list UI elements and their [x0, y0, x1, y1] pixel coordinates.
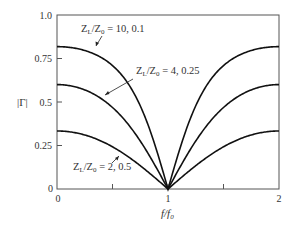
y-tick-label: 0.75 — [35, 53, 53, 64]
x-tick-label: 1 — [166, 193, 171, 204]
annotation-ratio-2: ZL/Z0 = 2, 0.5 — [73, 156, 131, 174]
arrow-line — [105, 79, 133, 95]
x-axis-label: f/f0 — [161, 207, 174, 221]
y-tick-label: 0.25 — [35, 140, 53, 151]
arrowhead-icon — [105, 91, 110, 95]
x-tick-label: 2 — [277, 193, 282, 204]
annotation-ratio-4: ZL/Z0 = 4, 0.25 — [105, 65, 200, 95]
x-tick-label: 0 — [56, 193, 61, 204]
svg-text:ZL/Z0 = 10, 0.1: ZL/Z0 = 10, 0.1 — [81, 23, 145, 36]
curve-series-2 — [57, 131, 279, 189]
y-axis-label: |Γ| — [17, 96, 28, 108]
annotation-ratio-10: ZL/Z0 = 10, 0.1 — [81, 23, 145, 46]
y-tick-label: 0 — [48, 183, 53, 194]
y-tick-label: 1.0 — [40, 10, 53, 21]
reflection-coefficient-chart: 1.0 0.75 0.5 0.25 0 |Γ| 0 1 2 f/f0 ZL/Z0… — [0, 0, 296, 231]
svg-text:ZL/Z0 = 4, 0.25: ZL/Z0 = 4, 0.25 — [136, 65, 200, 78]
y-axis: 1.0 0.75 0.5 0.25 0 |Γ| — [17, 10, 62, 194]
y-tick-label: 0.5 — [40, 97, 53, 108]
svg-text:ZL/Z0 = 2, 0.5: ZL/Z0 = 2, 0.5 — [73, 161, 131, 174]
